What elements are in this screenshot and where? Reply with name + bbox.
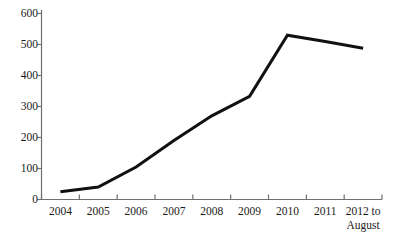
y-axis-tick-label: 400 xyxy=(4,70,38,82)
x-axis-tick-label-line1: 2012 to xyxy=(346,205,381,217)
x-axis-tick-label: 2007 xyxy=(162,205,185,218)
x-axis-tick-label-line1: 2007 xyxy=(162,205,185,217)
x-axis-tick-label: 2006 xyxy=(125,205,148,218)
x-axis-tick-label: 2008 xyxy=(200,205,223,218)
x-axis-tick-label-line1: 2004 xyxy=(49,205,72,217)
y-axis-tick-label: 100 xyxy=(4,163,38,175)
x-axis-tick-label-line1: 2005 xyxy=(87,205,110,217)
x-axis-tick-label: 2011 xyxy=(314,205,337,218)
y-axis-labels: 0100200300400500600 xyxy=(0,0,38,247)
y-axis-tick-label: 500 xyxy=(4,39,38,51)
x-axis-tick-label-line1: 2009 xyxy=(238,205,261,217)
y-axis-tick-label: 200 xyxy=(4,132,38,144)
x-axis-tick-label-line1: 2008 xyxy=(200,205,223,217)
x-axis-tick-label: 2004 xyxy=(49,205,72,218)
x-axis-tick-label-line2: August xyxy=(346,218,381,232)
x-axis-tick-label-line1: 2010 xyxy=(276,205,299,217)
data-series-line xyxy=(60,35,363,192)
y-axis-tick-label: 300 xyxy=(4,101,38,113)
x-axis-tick-label: 2005 xyxy=(87,205,110,218)
x-axis-tick-label-line1: 2011 xyxy=(314,205,337,217)
x-axis-tick-label: 2012 toAugust xyxy=(346,205,381,232)
x-axis-tick-label: 2009 xyxy=(238,205,261,218)
x-axis-ticks xyxy=(42,195,383,200)
line-chart: 0100200300400500600 20042005200620072008… xyxy=(0,0,397,247)
y-axis-tick-label: 0 xyxy=(4,194,38,206)
x-axis-tick-label-line1: 2006 xyxy=(125,205,148,217)
x-axis-tick-label: 2010 xyxy=(276,205,299,218)
y-axis-tick-label: 600 xyxy=(4,8,38,20)
